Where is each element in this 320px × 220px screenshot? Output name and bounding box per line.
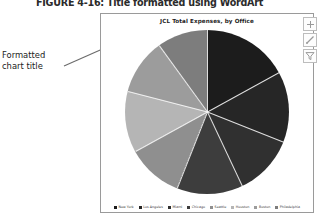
pie-slice-divider (159, 45, 208, 112)
chart-side-buttons[interactable] (303, 17, 318, 63)
legend-label: Chicago (192, 206, 205, 209)
figure-caption: FIGURE 4-16:Title formatted using WordAr… (36, 0, 306, 8)
legend-swatch (210, 206, 213, 209)
legend-label: Houston (236, 206, 250, 209)
legend-label: Philadelphia (280, 206, 300, 209)
annotation-formatted-chart-title: Formatted chart title (2, 50, 64, 71)
chart-title[interactable]: JCL Total Expenses, by Office (101, 18, 313, 24)
legend-item[interactable]: Los Angeles (139, 206, 163, 209)
legend-label: Seattle (215, 206, 227, 209)
legend-label: New York (119, 206, 134, 209)
legend-label: Los Angeles (143, 206, 163, 209)
pie-slice-divider (135, 112, 207, 152)
legend-item[interactable]: Houston (231, 206, 249, 209)
funnel-icon (305, 51, 315, 61)
legend-swatch (114, 206, 117, 209)
legend-item[interactable]: Chicago (187, 206, 205, 209)
pie-chart[interactable] (125, 30, 289, 194)
page-bottom-rule (0, 217, 320, 220)
legend-swatch (187, 206, 190, 209)
legend-swatch (168, 206, 171, 209)
legend-item[interactable]: Miami (168, 206, 182, 209)
chart-filters-button[interactable] (303, 49, 317, 63)
legend-swatch (275, 206, 278, 209)
legend-label: Miami (172, 206, 182, 209)
pie-slice-divider (207, 30, 208, 112)
chart-styles-button[interactable] (303, 33, 317, 47)
legend-swatch (139, 206, 142, 209)
legend-item[interactable]: Boston (254, 206, 270, 209)
pie-slice-divider (207, 72, 279, 112)
legend-swatch (231, 206, 234, 209)
legend-swatch (254, 206, 257, 209)
plus-icon (306, 20, 315, 29)
chart-legend[interactable]: New YorkLos AngelesMiamiChicagoSeattleHo… (101, 206, 313, 209)
brush-icon (305, 35, 315, 45)
legend-label: Boston (259, 206, 270, 209)
legend-item[interactable]: New York (114, 206, 134, 209)
pie-plot-area[interactable] (101, 30, 313, 198)
figure-number: FIGURE 4-16: (36, 0, 104, 8)
pie-slice-divider (177, 112, 208, 189)
legend-item[interactable]: Seattle (210, 206, 226, 209)
chart-elements-button[interactable] (303, 17, 317, 31)
figure-caption-text: Title formatted using WordArt (107, 0, 263, 8)
excel-chart-object[interactable]: JCL Total Expenses, by Office New YorkLo… (100, 13, 314, 213)
legend-item[interactable]: Philadelphia (275, 206, 300, 209)
